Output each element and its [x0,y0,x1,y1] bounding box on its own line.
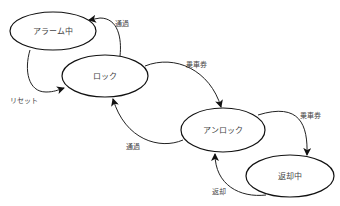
state-unlocked-label: アンロック [203,126,243,135]
state-locked: ロック [62,55,148,97]
state-diagram: アラーム中 ロック アンロック 返却中 通過 リセット 乗車券 通過 乗車券 返… [0,0,340,206]
label-returning-to-unlocked: 返却 [212,187,226,196]
transition-unlocked-to-locked [113,99,183,144]
state-alarm: アラーム中 [10,12,96,50]
label-locked-to-alarm: 通過 [115,19,129,28]
state-returning-label: 返却中 [278,171,302,181]
transition-locked-to-unlocked [145,62,221,107]
state-unlocked: アンロック [181,108,265,152]
transition-alarm-to-locked [27,50,64,92]
state-alarm-label: アラーム中 [33,26,73,36]
state-returning: 返却中 [246,155,334,197]
label-unlocked-to-returning: 乗車券 [300,111,321,120]
label-unlocked-to-locked: 通過 [126,142,140,151]
state-locked-label: ロック [93,72,117,81]
label-alarm-to-locked: リセット [10,97,38,105]
label-locked-to-unlocked: 乗車券 [186,60,207,69]
